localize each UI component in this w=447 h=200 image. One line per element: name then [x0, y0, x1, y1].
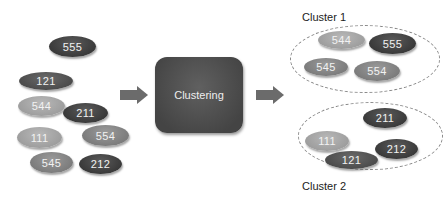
input-node-212: 212: [79, 154, 122, 174]
cluster-1-node-544: 544: [318, 31, 365, 49]
clustering-process-box: Clustering: [155, 57, 243, 133]
right-arrow-icon: [256, 86, 284, 104]
right-arrow-icon: [120, 86, 148, 104]
input-node-111: 111: [17, 127, 62, 148]
cluster-1-node-555: 555: [369, 33, 416, 54]
input-node-555: 555: [49, 36, 96, 57]
cluster-2-node-211: 211: [363, 108, 407, 128]
input-node-554: 554: [82, 125, 129, 146]
input-node-211: 211: [63, 103, 108, 123]
cluster-1-node-554: 554: [354, 61, 400, 81]
cluster-2-node-111: 111: [305, 131, 349, 151]
input-node-545: 545: [30, 152, 73, 173]
input-node-544: 544: [18, 96, 65, 116]
cluster-1-title: Cluster 1: [302, 11, 346, 23]
cluster-2-node-121: 121: [325, 151, 378, 169]
cluster-2-title: Cluster 2: [302, 180, 346, 192]
cluster-1-node-545: 545: [304, 58, 348, 76]
input-node-121: 121: [19, 72, 73, 90]
cluster-2-node-212: 212: [375, 139, 418, 159]
